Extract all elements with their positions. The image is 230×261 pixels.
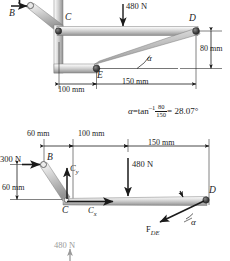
figure-container: B C D E 480 N α 100 mm 150 mm 80 mm α=ta… xyxy=(0,0,230,261)
fbd-pin-b xyxy=(41,162,47,168)
eqn-tan: tan xyxy=(138,106,149,116)
member-cd xyxy=(57,27,198,36)
fbd-pin-d xyxy=(203,197,209,203)
fbd-label-point-d: D xyxy=(209,186,216,196)
fbd-cx-subscript: x xyxy=(94,210,97,217)
bottom-free-body-diagram xyxy=(10,139,209,261)
label-point-b-top: B xyxy=(9,9,15,19)
fbd-member-bc xyxy=(40,163,70,202)
label-point-c-top: C xyxy=(65,13,71,23)
label-point-e-top: E xyxy=(97,71,103,81)
angle-equation: α=tan–180150= 28.07° xyxy=(128,104,198,119)
pin-b xyxy=(27,2,33,8)
fbd-label-point-b: B xyxy=(47,153,53,163)
fbd-label-angle-alpha: α xyxy=(191,218,196,227)
fbd-label-dim-100h: 100 mm xyxy=(78,130,104,138)
eqn-result: = 28.07° xyxy=(167,106,198,116)
label-dim-80-top: 80 mm xyxy=(200,45,222,53)
label-dim-150-top: 150 mm xyxy=(122,78,148,86)
fbd-label-dim-60h: 60 mm xyxy=(27,130,49,138)
fbd-fde-subscript: DE xyxy=(151,229,160,236)
pin-c xyxy=(55,28,61,34)
label-angle-alpha-top: α xyxy=(147,54,152,63)
fbd-label-force-cx: Cx xyxy=(88,206,97,217)
label-point-d-top: D xyxy=(189,14,196,24)
eqn-denominator: 150 xyxy=(155,112,167,119)
fbd-label-dim-60v: 60 mm xyxy=(2,184,24,192)
fbd-label-point-c: C xyxy=(62,206,68,216)
label-dim-100-top: 100 mm xyxy=(58,86,84,94)
label-load-480-top: 480 N xyxy=(126,2,147,11)
member-c-bottom-stub xyxy=(54,64,98,73)
fbd-tick-near-d xyxy=(180,191,183,197)
fbd-label-force-480-bottom: 480 N xyxy=(54,241,75,250)
fbd-label-force-fde: FDE xyxy=(146,225,159,236)
fbd-label-force-cy: Cy xyxy=(70,164,79,175)
fbd-label-force-480: 480 N xyxy=(132,160,153,169)
fbd-label-dim-150h: 150 mm xyxy=(148,139,174,147)
fbd-cy-subscript: y xyxy=(76,168,79,175)
fbd-label-force-300: 300 N xyxy=(0,155,21,164)
